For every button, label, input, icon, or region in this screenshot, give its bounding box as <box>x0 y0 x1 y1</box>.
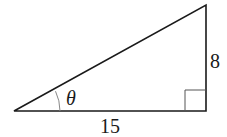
angle-label: θ <box>66 87 76 109</box>
height-label: 8 <box>210 50 220 72</box>
base-label: 15 <box>100 115 120 137</box>
angle-arc <box>56 91 61 111</box>
right-angle-marker <box>185 90 206 111</box>
triangle <box>14 5 206 111</box>
right-triangle-diagram: θ 15 8 <box>0 0 227 137</box>
